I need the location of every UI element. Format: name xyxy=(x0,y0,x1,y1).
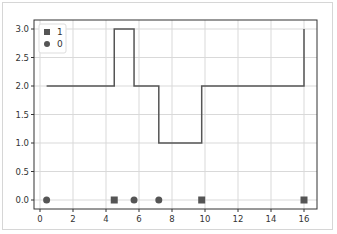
y-tick-label: 2.0 xyxy=(15,81,29,91)
legend-circle-icon xyxy=(44,41,50,47)
x-tick-label: 4 xyxy=(103,214,108,224)
y-tick-label: 1.5 xyxy=(15,110,29,120)
x-tick-label: 10 xyxy=(200,214,211,224)
circle-marker xyxy=(155,197,162,204)
x-tick-label: 14 xyxy=(266,214,277,224)
y-tick-label: 1.0 xyxy=(15,138,29,148)
x-tick-label: 16 xyxy=(299,214,310,224)
y-tick-label: 2.5 xyxy=(15,53,29,63)
x-tick-label: 6 xyxy=(136,214,141,224)
y-tick-label: 0.5 xyxy=(15,167,29,177)
legend-square-icon xyxy=(44,29,50,35)
y-tick-label: 3.0 xyxy=(15,24,29,34)
circle-marker xyxy=(43,197,50,204)
square-marker xyxy=(198,197,205,204)
circle-marker xyxy=(131,197,138,204)
x-tick-label: 8 xyxy=(169,214,174,224)
x-tick-label: 12 xyxy=(233,214,244,224)
x-tick-label: 0 xyxy=(37,214,42,224)
legend-label: 1 xyxy=(57,27,63,37)
x-tick-label: 2 xyxy=(70,214,75,224)
square-marker xyxy=(301,197,308,204)
square-marker xyxy=(111,197,118,204)
y-tick-label: 0.0 xyxy=(15,195,29,205)
legend-label: 0 xyxy=(57,39,63,49)
step-chart: 02468101214160.00.51.01.52.02.53.010 xyxy=(0,0,337,234)
